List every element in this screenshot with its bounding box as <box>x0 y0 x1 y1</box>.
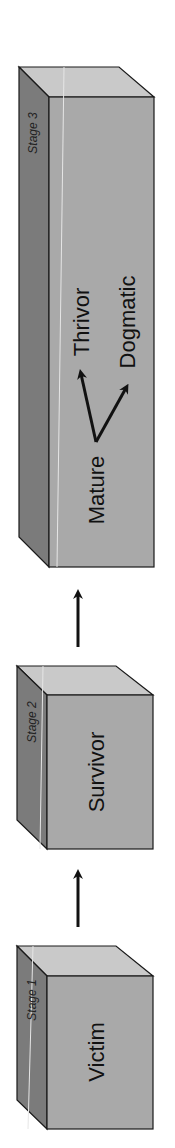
label-survivor: Survivor <box>84 732 109 813</box>
stage-3-box: Stage 3 Mature Thrivor Dogmatic <box>19 67 154 567</box>
stage-1-box: Stage 1 Victim <box>17 946 153 1129</box>
label-victim: Victim <box>84 1022 109 1082</box>
stage-2-label: Stage 2 <box>25 701 39 743</box>
stage-diagram: Stage 3 Mature Thrivor Dogmatic Stage 2 … <box>0 0 175 1148</box>
label-thrivor: Thrivor <box>69 288 94 356</box>
label-mature: Mature <box>84 456 109 524</box>
label-dogmatic: Dogmatic <box>115 276 140 369</box>
stage-2-box: Stage 2 Survivor <box>17 666 153 849</box>
stage-1-label: Stage 1 <box>25 979 39 1020</box>
stage-3-label: Stage 3 <box>26 112 40 154</box>
